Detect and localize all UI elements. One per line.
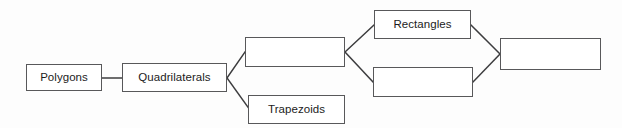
node-rectangles[interactable]: Rectangles — [374, 10, 471, 39]
connector-blank-top-to-blank-bottom — [345, 52, 373, 82]
node-quadrilaterals-label: Quadrilaterals — [138, 72, 210, 84]
node-polygons-label: Polygons — [40, 72, 88, 84]
node-blank-parallelograms[interactable] — [245, 37, 345, 67]
connector-blank-top-to-rectangles — [345, 25, 374, 52]
node-trapezoids[interactable]: Trapezoids — [248, 95, 345, 124]
connector-rectangles-to-blank-right — [471, 25, 500, 54]
node-blank-rhombuses[interactable] — [373, 67, 473, 97]
connector-blank-bottom-to-blank-right — [473, 54, 500, 82]
node-quadrilaterals[interactable]: Quadrilaterals — [122, 63, 227, 92]
node-trapezoids-label: Trapezoids — [268, 104, 325, 116]
connector-quadrilaterals-to-trapezoids — [227, 78, 250, 110]
flowchart-canvas: Polygons Quadrilaterals Trapezoids Recta… — [0, 0, 622, 128]
node-polygons[interactable]: Polygons — [26, 64, 102, 91]
connector-quadrilaterals-to-blank-top — [227, 52, 245, 78]
node-blank-squares[interactable] — [500, 38, 601, 70]
node-rectangles-label: Rectangles — [393, 19, 451, 31]
